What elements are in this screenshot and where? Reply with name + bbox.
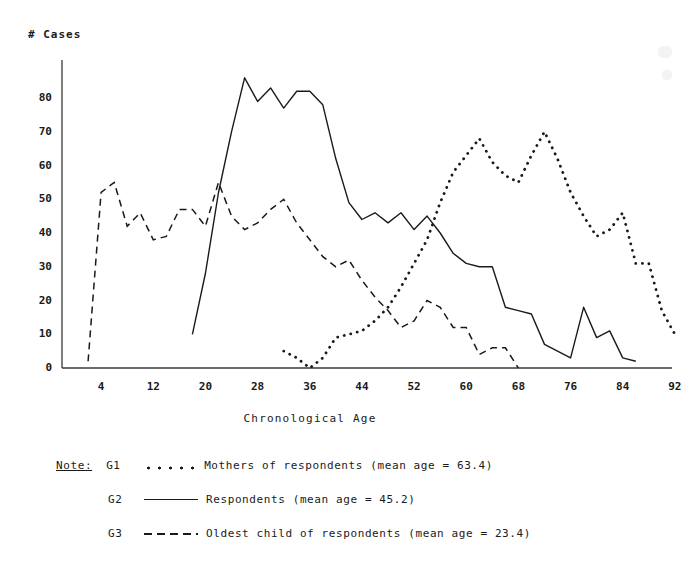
data-series-group	[88, 78, 675, 368]
legend-row-g2: G2 Respondents (mean age = 45.2)	[56, 482, 656, 516]
legend-row-g1: Note: G1 Mothers of respondents (mean ag…	[56, 448, 656, 482]
note-word: Note:	[56, 459, 92, 472]
legend-sample-solid-icon	[144, 494, 198, 504]
legend-key-g3: G3	[108, 527, 134, 540]
legend-label-g1: Mothers of respondents (mean age = 63.4)	[204, 459, 493, 472]
legend-row-g3: G3 Oldest child of respondents (mean age…	[56, 516, 656, 550]
legend-sample-dotted-icon	[142, 460, 196, 470]
data-series-g3	[88, 182, 518, 368]
data-series-g1	[284, 132, 675, 368]
legend-label-g3: Oldest child of respondents (mean age = …	[206, 527, 531, 540]
legend-key-g1: G1	[106, 459, 132, 472]
legend-label-g2: Respondents (mean age = 45.2)	[206, 493, 415, 506]
legend-key-g2: G2	[108, 493, 134, 506]
legend-sample-dashed-icon	[144, 528, 198, 538]
legend-note: Note: G1 Mothers of respondents (mean ag…	[56, 448, 656, 550]
data-series-g2	[192, 78, 635, 362]
chart-container: # Cases Chronological Age 01020304050607…	[0, 0, 692, 562]
